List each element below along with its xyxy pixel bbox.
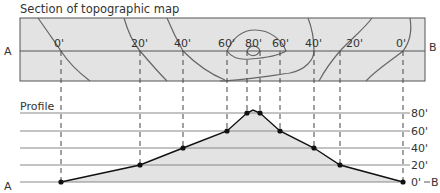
svg-text:20': 20'	[411, 159, 428, 172]
svg-text:0': 0'	[396, 37, 406, 50]
tick-extensions	[400, 113, 410, 165]
map-label-b: B	[429, 41, 437, 54]
svg-text:40': 40'	[174, 37, 191, 50]
svg-text:60': 60'	[218, 37, 235, 50]
svg-text:0': 0'	[54, 37, 64, 50]
profile-label-a: A	[4, 180, 12, 193]
elevation-labels: 80' 60' 40' 20' 0'	[411, 107, 428, 189]
svg-text:40': 40'	[305, 37, 322, 50]
svg-text:40': 40'	[411, 142, 428, 155]
svg-text:0': 0'	[411, 176, 421, 189]
map-title: Section of topographic map	[20, 2, 179, 16]
profile-title: Profile	[20, 100, 54, 113]
svg-text:80': 80'	[411, 107, 428, 120]
topographic-profile-diagram: Section of topographic map A B 0' 20' 40…	[0, 0, 440, 193]
profile-label-b: B	[431, 176, 439, 189]
svg-text:20': 20'	[131, 37, 148, 50]
svg-text:80': 80'	[245, 37, 262, 50]
svg-text:60': 60'	[411, 125, 428, 138]
svg-text:20': 20'	[346, 37, 363, 50]
svg-text:60': 60'	[272, 37, 289, 50]
map-label-a: A	[4, 45, 12, 58]
